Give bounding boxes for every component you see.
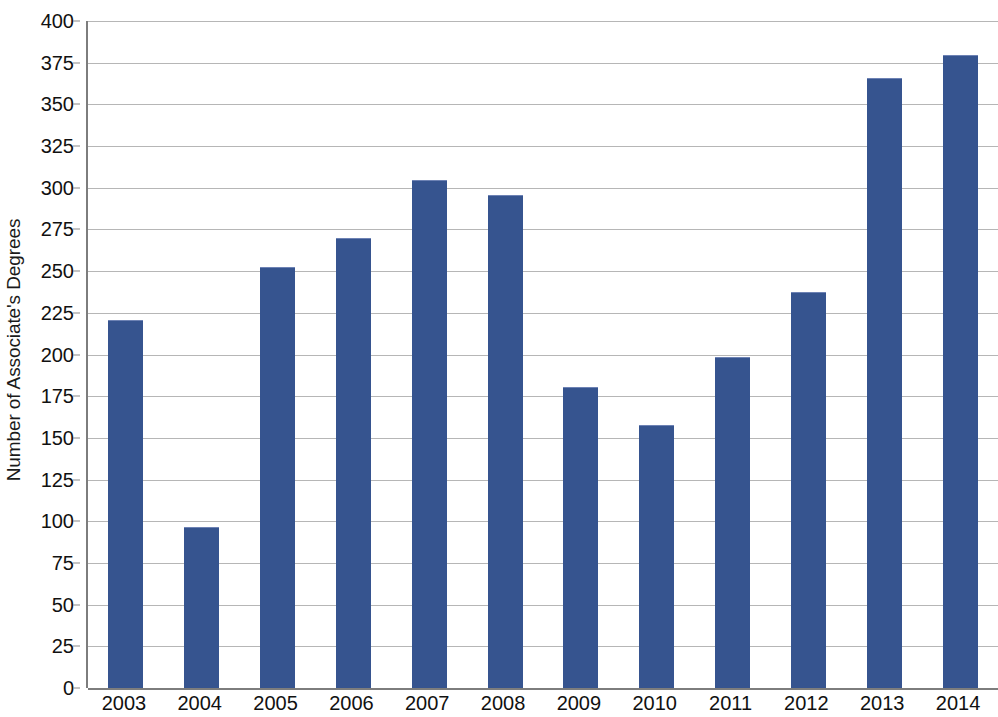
bar-slot (770, 21, 846, 688)
bar-slot (315, 21, 391, 688)
y-axis-tick-label: 350 (41, 93, 74, 116)
x-axis-tick-label: 2011 (693, 690, 769, 717)
bar[interactable] (488, 195, 523, 688)
y-axis-tick-mark (73, 688, 80, 689)
y-axis-tick-mark (73, 312, 80, 313)
y-axis-tick-mark (73, 396, 80, 397)
y-axis-tick-label: 325 (41, 135, 74, 158)
x-axis-tick-label: 2010 (617, 690, 693, 717)
y-axis-tick-mark (73, 604, 80, 605)
y-axis-tick-mark (73, 479, 80, 480)
x-axis-tick-label: 2006 (313, 690, 389, 717)
y-axis-tick-mark (73, 187, 80, 188)
y-axis-tick-label: 150 (41, 426, 74, 449)
y-axis-tick-label: 75 (52, 551, 74, 574)
bar-slot (88, 21, 164, 688)
y-axis-tick-mark (73, 271, 80, 272)
bar-slot (391, 21, 467, 688)
bar[interactable] (715, 357, 750, 688)
bar[interactable] (336, 238, 371, 688)
y-axis-tick-mark (73, 354, 80, 355)
y-axis-tick-label: 300 (41, 176, 74, 199)
y-axis-tick-label: 25 (52, 635, 74, 658)
x-axis-tick-label: 2009 (541, 690, 617, 717)
y-axis-tick-labels: 4003753503253002752502252001751501251007… (28, 0, 80, 717)
y-axis-tick-label: 100 (41, 510, 74, 533)
y-axis-tick-label: 400 (41, 10, 74, 33)
bar-slot (695, 21, 771, 688)
y-axis-tick-mark (73, 21, 80, 22)
y-axis-tick-mark (73, 646, 80, 647)
y-axis-tick-mark (73, 146, 80, 147)
y-axis-tick-mark (73, 229, 80, 230)
bar-slot (240, 21, 316, 688)
plot-inner (88, 21, 998, 688)
y-axis-tick-label: 275 (41, 218, 74, 241)
y-axis-tick-mark (73, 562, 80, 563)
plot-area (86, 21, 998, 688)
x-axis-tick-label: 2004 (162, 690, 238, 717)
bar-slot (846, 21, 922, 688)
bar[interactable] (943, 55, 978, 688)
y-axis-tick-label: 225 (41, 301, 74, 324)
y-axis-tick-mark (73, 437, 80, 438)
x-axis-tick-label: 2012 (768, 690, 844, 717)
x-axis-tick-labels: 2003200420052006200720082009201020112012… (86, 690, 996, 717)
bar[interactable] (563, 387, 598, 688)
bar[interactable] (412, 180, 447, 688)
x-axis-tick-label: 2013 (844, 690, 920, 717)
y-axis-tick-label: 200 (41, 343, 74, 366)
bar-slot (922, 21, 998, 688)
x-axis-tick-label: 2005 (238, 690, 314, 717)
bar-slot (164, 21, 240, 688)
bar[interactable] (260, 267, 295, 688)
y-axis-tick-mark (73, 521, 80, 522)
y-axis-tick-mark (73, 62, 80, 63)
bar[interactable] (108, 320, 143, 688)
bar-slot (619, 21, 695, 688)
y-axis-tick-label: 50 (52, 593, 74, 616)
x-axis-tick-label: 2007 (389, 690, 465, 717)
y-axis-title-text: Number of Associate's Degrees (3, 219, 25, 482)
bar-slot (543, 21, 619, 688)
y-axis-tick-label: 250 (41, 260, 74, 283)
y-axis-tick-label: 175 (41, 385, 74, 408)
bar-slot (467, 21, 543, 688)
y-axis-tick-label: 375 (41, 51, 74, 74)
bar[interactable] (184, 527, 219, 688)
y-axis-tick-label: 125 (41, 468, 74, 491)
bar[interactable] (639, 425, 674, 688)
bar[interactable] (867, 78, 902, 688)
y-axis-title: Number of Associate's Degrees (0, 0, 28, 700)
y-axis-tick-mark (73, 104, 80, 105)
x-axis-tick-label: 2008 (465, 690, 541, 717)
bar[interactable] (791, 292, 826, 688)
x-axis-tick-label: 2014 (920, 690, 996, 717)
bars-layer (88, 21, 998, 688)
x-axis-tick-label: 2003 (86, 690, 162, 717)
